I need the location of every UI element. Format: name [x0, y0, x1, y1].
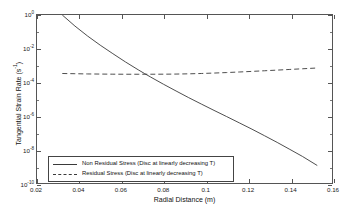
x-tick-label: 0.16 [327, 186, 339, 193]
x-tick-mark [207, 15, 208, 19]
y-tick-label-exponent: -4 [30, 78, 34, 83]
x-tick-label: 0.1 [201, 186, 210, 193]
y-axis-title-tail: ) [15, 62, 22, 64]
y-tick-label-exponent: -8 [30, 146, 34, 151]
y-tick-mark [37, 83, 41, 84]
y-axis-title-text: Tangential Strain Rate (s [15, 69, 22, 146]
series-line-non-residual-stress [62, 15, 317, 166]
y-tick-label-base: 10 [20, 181, 27, 188]
y-tick-mark-minor [330, 134, 332, 135]
y-tick-label-exponent: 0 [31, 10, 34, 15]
x-tick-mark [164, 15, 165, 19]
y-tick-label-exponent: -10 [27, 180, 34, 185]
x-tick-mark [79, 15, 80, 19]
x-tick-mark [292, 15, 293, 19]
y-tick-label: 10-2 [23, 44, 34, 52]
x-tick-mark [249, 15, 250, 19]
series-line-residual-stress [62, 68, 317, 74]
y-tick-label-base: 10 [25, 11, 32, 18]
y-tick-label-base: 10 [23, 147, 30, 154]
y-tick-label-base: 10 [23, 113, 30, 120]
legend-entry-non-residual-stress: Non Residual Stress (Disc at linearly de… [52, 159, 230, 169]
y-axis-title: Tangential Strain Rate (s-1) [12, 29, 21, 179]
x-tick-mark [37, 179, 38, 183]
y-tick-mark [328, 49, 332, 50]
y-tick-label: 10-4 [23, 78, 34, 86]
y-tick-mark [37, 15, 41, 16]
legend-key-dashed-line [52, 170, 78, 178]
y-tick-mark-minor [37, 168, 39, 169]
x-tick-label: 0.04 [72, 186, 84, 193]
legend-label-residual-stress: Residual Stress (Disc at linearly decrea… [82, 171, 203, 177]
legend-key-solid-line [52, 160, 78, 168]
x-tick-label: 0.14 [285, 186, 297, 193]
y-tick-label-base: 10 [23, 45, 30, 52]
y-tick-mark [37, 151, 41, 152]
y-tick-mark-minor [37, 32, 39, 33]
y-axis-title-exponent: -1 [12, 64, 18, 68]
y-tick-label: 10-6 [23, 112, 34, 120]
legend-entry-residual-stress: Residual Stress (Disc at linearly decrea… [52, 169, 230, 179]
y-tick-label: 10-8 [23, 146, 34, 154]
x-tick-mark [334, 179, 335, 183]
figure-canvas: Tangential Strain Rate (s-1) 10010-210-4… [0, 0, 346, 218]
x-tick-mark [122, 15, 123, 19]
x-tick-mark [334, 15, 335, 19]
y-tick-mark-minor [37, 66, 39, 67]
y-tick-mark [37, 117, 41, 118]
x-axis-title: Radial Distance (m) [36, 196, 333, 203]
y-tick-mark-minor [37, 100, 39, 101]
y-tick-mark [328, 15, 332, 16]
y-tick-mark-minor [330, 168, 332, 169]
x-tick-mark [292, 179, 293, 183]
y-tick-label-base: 10 [23, 79, 30, 86]
y-tick-mark-minor [330, 100, 332, 101]
x-tick-label: 0.06 [115, 186, 127, 193]
x-tick-label: 0.02 [30, 186, 42, 193]
y-tick-mark-minor [330, 66, 332, 67]
y-tick-label-exponent: -2 [30, 44, 34, 49]
legend-label-non-residual-stress: Non Residual Stress (Disc at linearly de… [82, 161, 215, 167]
x-tick-label: 0.12 [242, 186, 254, 193]
y-tick-mark [328, 151, 332, 152]
y-tick-mark [328, 117, 332, 118]
x-tick-label: 0.08 [157, 186, 169, 193]
y-tick-label: 100 [25, 10, 34, 18]
x-tick-mark [249, 179, 250, 183]
y-tick-mark [37, 49, 41, 50]
y-tick-label-exponent: -6 [30, 112, 34, 117]
y-tick-mark-minor [37, 134, 39, 135]
chart-legend: Non Residual Stress (Disc at linearly de… [48, 156, 234, 182]
y-tick-mark [328, 83, 332, 84]
y-tick-mark-minor [330, 32, 332, 33]
